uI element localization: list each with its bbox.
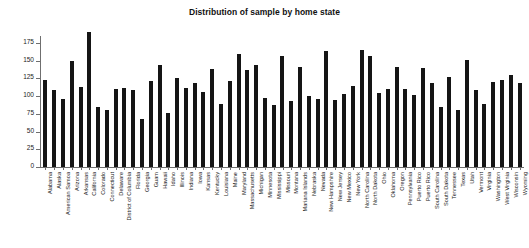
bar[interactable] bbox=[482, 104, 486, 167]
bar[interactable] bbox=[210, 69, 214, 167]
x-tick-mark bbox=[177, 167, 178, 170]
x-axis-label: Michigan bbox=[258, 172, 264, 194]
x-axis-label: Guam bbox=[153, 172, 159, 187]
bar[interactable] bbox=[184, 88, 188, 167]
bar[interactable] bbox=[122, 88, 126, 167]
bar[interactable] bbox=[79, 87, 83, 167]
x-tick-mark bbox=[414, 167, 415, 170]
bar[interactable] bbox=[237, 54, 241, 167]
bar[interactable] bbox=[96, 107, 100, 167]
bar[interactable] bbox=[456, 110, 460, 167]
x-tick-mark bbox=[449, 167, 450, 170]
x-tick-mark bbox=[107, 167, 108, 170]
y-tick-mark bbox=[36, 167, 40, 168]
bar[interactable] bbox=[158, 65, 162, 167]
x-axis-label: Indiana bbox=[188, 172, 194, 190]
x-tick-mark bbox=[432, 167, 433, 170]
x-tick-mark bbox=[45, 167, 46, 170]
bar[interactable] bbox=[272, 105, 276, 167]
x-axis-label: New Jersey bbox=[337, 172, 343, 201]
y-tick-mark bbox=[36, 61, 40, 62]
x-tick-mark bbox=[265, 167, 266, 170]
bar[interactable] bbox=[430, 83, 434, 167]
y-tick-label: 125 bbox=[23, 73, 34, 80]
bar[interactable] bbox=[149, 81, 153, 167]
bar[interactable] bbox=[518, 83, 522, 167]
bar[interactable] bbox=[254, 65, 258, 167]
x-tick-mark bbox=[467, 167, 468, 170]
bar[interactable] bbox=[324, 51, 328, 167]
x-axis-label: Utah bbox=[469, 172, 475, 184]
x-tick-mark bbox=[230, 167, 231, 170]
bar[interactable] bbox=[43, 80, 47, 167]
x-tick-mark bbox=[256, 167, 257, 170]
bar[interactable] bbox=[140, 119, 144, 167]
y-tick-label: 175 bbox=[23, 38, 34, 45]
x-axis-label: Georgia bbox=[144, 172, 150, 192]
x-axis-label: Delaware bbox=[118, 172, 124, 196]
bar[interactable] bbox=[201, 92, 205, 167]
bar[interactable] bbox=[245, 70, 249, 167]
bar[interactable] bbox=[421, 68, 425, 167]
bar[interactable] bbox=[307, 96, 311, 167]
x-axis-label: South Dakota bbox=[443, 172, 449, 206]
x-axis-label: Massachusetts bbox=[249, 172, 255, 209]
bar[interactable] bbox=[289, 101, 293, 167]
bar[interactable] bbox=[491, 82, 495, 167]
bar[interactable] bbox=[263, 98, 267, 167]
x-axis-label: New Mexico bbox=[346, 172, 352, 202]
bars-layer bbox=[41, 0, 524, 248]
bar[interactable] bbox=[61, 99, 65, 167]
y-axis-tick: 100 bbox=[0, 96, 40, 97]
x-axis-label: Nevada bbox=[320, 172, 326, 191]
y-tick-label: 150 bbox=[23, 56, 34, 63]
y-tick-mark bbox=[36, 43, 40, 44]
y-tick-label: 0 bbox=[30, 162, 34, 169]
bar[interactable] bbox=[280, 56, 284, 167]
x-axis-label: Alaska bbox=[56, 172, 62, 189]
bar[interactable] bbox=[474, 90, 478, 167]
x-tick-mark bbox=[335, 167, 336, 170]
bar[interactable] bbox=[403, 89, 407, 167]
bar[interactable] bbox=[316, 99, 320, 167]
bar[interactable] bbox=[377, 93, 381, 167]
y-axis-tick: 175 bbox=[0, 43, 40, 44]
bar[interactable] bbox=[368, 56, 372, 167]
bar[interactable] bbox=[298, 67, 302, 167]
x-tick-mark bbox=[520, 167, 521, 170]
bar[interactable] bbox=[342, 94, 346, 167]
bar[interactable] bbox=[439, 107, 443, 167]
x-tick-mark bbox=[212, 167, 213, 170]
y-tick-label: 50 bbox=[27, 127, 34, 134]
bar[interactable] bbox=[105, 110, 109, 167]
bar[interactable] bbox=[193, 83, 197, 167]
bar[interactable] bbox=[87, 32, 91, 167]
bar[interactable] bbox=[70, 61, 74, 167]
bar[interactable] bbox=[465, 60, 469, 167]
bar[interactable] bbox=[52, 90, 56, 167]
bar[interactable] bbox=[219, 104, 223, 167]
x-tick-mark bbox=[89, 167, 90, 170]
bar[interactable] bbox=[228, 81, 232, 167]
bar[interactable] bbox=[131, 90, 135, 167]
bar[interactable] bbox=[500, 80, 504, 167]
x-axis-label: Montana bbox=[293, 172, 299, 194]
bar[interactable] bbox=[333, 100, 337, 167]
x-axis-label: North Dakota bbox=[372, 172, 378, 205]
x-axis-label: Hawaii bbox=[162, 172, 168, 189]
x-tick-mark bbox=[142, 167, 143, 170]
bar[interactable] bbox=[509, 75, 513, 167]
x-axis-label: Nebraska bbox=[311, 172, 317, 196]
bar[interactable] bbox=[351, 86, 355, 167]
y-tick-label: 25 bbox=[27, 144, 34, 151]
bar[interactable] bbox=[360, 50, 364, 167]
bar[interactable] bbox=[166, 113, 170, 167]
bar[interactable] bbox=[175, 78, 179, 167]
bar[interactable] bbox=[395, 67, 399, 167]
y-axis-tick: 75 bbox=[0, 114, 40, 115]
bar[interactable] bbox=[386, 89, 390, 167]
y-tick-mark bbox=[36, 149, 40, 150]
bar[interactable] bbox=[114, 89, 118, 167]
bar[interactable] bbox=[412, 95, 416, 167]
bar[interactable] bbox=[447, 77, 451, 167]
